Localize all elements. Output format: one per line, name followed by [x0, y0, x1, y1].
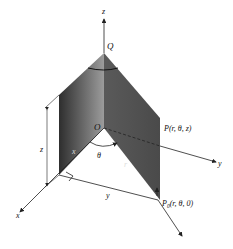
y-segment-label: y — [105, 191, 110, 200]
z-height-label: z — [39, 145, 44, 154]
p0-rest: (r, θ, 0) — [170, 199, 194, 208]
x-segment-label: x — [71, 147, 76, 156]
y-axis — [160, 146, 216, 162]
theta-arc — [90, 142, 117, 146]
theta-label: θ — [97, 151, 101, 160]
right-angle-marker — [66, 172, 73, 181]
z-axis-label: z — [101, 7, 106, 16]
point-p-label: P(r, θ, z) — [163, 124, 192, 133]
right-half-plane — [104, 53, 160, 200]
z-dimension-top-tick — [45, 95, 59, 108]
point-q-label: Q — [107, 41, 114, 51]
point-p0-label: P0(r, θ, 0) — [161, 199, 193, 209]
y-axis-label: y — [217, 159, 222, 168]
cylindrical-coordinates-diagram: z Q O P(r, θ, z) y x θ r x y z P0(r, θ, … — [0, 0, 233, 249]
x-axis-label: x — [15, 211, 20, 220]
r-label: r — [124, 160, 128, 169]
origin-label: O — [94, 122, 101, 132]
